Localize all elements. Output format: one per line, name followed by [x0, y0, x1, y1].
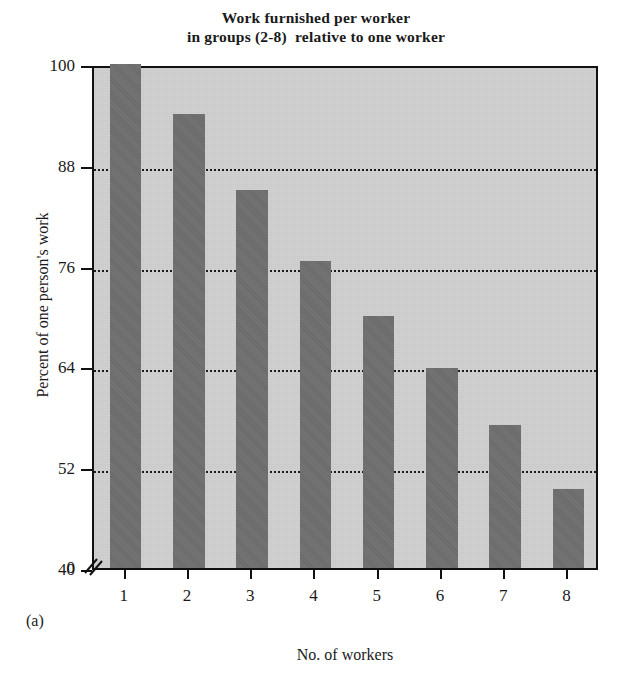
bar-2 — [173, 114, 205, 568]
gridline — [94, 169, 596, 171]
bar-7 — [489, 425, 521, 568]
chart-title: Work furnished per worker in groups (2-8… — [0, 8, 632, 46]
chart-title-line-2: in groups (2-8) relative to one worker — [0, 27, 632, 46]
bar-3 — [236, 190, 268, 568]
bar-4 — [300, 261, 332, 568]
y-tick-label: 88 — [15, 158, 75, 175]
y-tick-label-zero: 0 — [15, 559, 75, 576]
bar-6 — [426, 368, 458, 568]
x-tick-mark — [187, 570, 189, 579]
y-tick-mark — [81, 268, 92, 270]
chart-title-line-1: Work furnished per worker — [0, 8, 632, 27]
x-tick-label: 3 — [235, 586, 265, 606]
bar-8 — [553, 489, 585, 568]
x-tick-label: 1 — [109, 586, 139, 606]
axis-break-icon — [82, 556, 104, 578]
y-tick-mark — [81, 167, 92, 169]
bar-5 — [363, 316, 395, 568]
x-tick-label: 7 — [488, 586, 518, 606]
y-tick-label: 76 — [15, 259, 75, 276]
y-tick-mark — [81, 66, 92, 68]
x-axis-title: No. of workers — [92, 646, 598, 664]
y-tick-label: 52 — [15, 460, 75, 477]
y-tick-mark — [81, 469, 92, 471]
x-tick-label: 8 — [551, 586, 581, 606]
y-tick-label: 100 — [15, 57, 75, 74]
x-tick-mark — [566, 570, 568, 579]
y-axis-title: Percent of one person's work — [34, 165, 52, 445]
gridline — [94, 270, 596, 272]
x-tick-label: 2 — [172, 586, 202, 606]
x-tick-label: 4 — [298, 586, 328, 606]
x-tick-mark — [503, 570, 505, 579]
y-tick-label: 64 — [15, 359, 75, 376]
x-tick-label: 6 — [425, 586, 455, 606]
bar-1 — [110, 64, 142, 568]
x-tick-mark — [124, 570, 126, 579]
gridline — [94, 370, 596, 372]
x-tick-label: 5 — [362, 586, 392, 606]
x-tick-mark — [377, 570, 379, 579]
x-tick-mark — [440, 570, 442, 579]
y-tick-mark — [81, 368, 92, 370]
panel-label: (a) — [26, 612, 44, 630]
x-tick-mark — [313, 570, 315, 579]
plot-area — [92, 66, 598, 570]
x-tick-mark — [250, 570, 252, 579]
figure: Work furnished per worker in groups (2-8… — [0, 0, 632, 686]
